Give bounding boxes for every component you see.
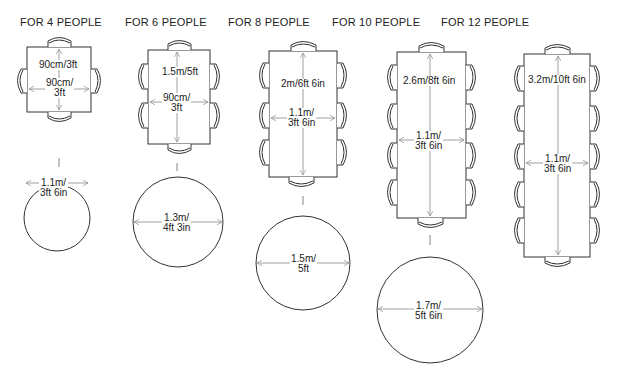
width-label: 90cm/ 3ft — [162, 93, 191, 113]
group-title: FOR 12 PEOPLE — [441, 16, 529, 28]
chair-icon — [466, 180, 476, 205]
chair-icon — [388, 104, 398, 129]
width-label-line2: 3ft 6in — [415, 141, 442, 151]
table-size-diagram — [0, 0, 620, 374]
length-label: 90cm/3ft — [38, 60, 78, 70]
chair-icon — [515, 66, 525, 91]
chair-icon — [590, 66, 600, 91]
group-title: FOR 6 PEOPLE — [125, 16, 207, 28]
group-title: FOR 10 PEOPLE — [332, 16, 420, 28]
chair-icon — [91, 69, 101, 93]
chair-icon — [590, 144, 600, 169]
chair-icon — [388, 65, 398, 90]
chair-icon — [590, 218, 600, 243]
length-label: 3.2m/10ft 6in — [527, 75, 587, 85]
chair-icon — [466, 143, 476, 168]
chair-icon — [291, 42, 316, 52]
width-label-line2: 3ft 6in — [288, 118, 315, 128]
width-label: 1.1m/ 3ft 6in — [287, 108, 316, 128]
chair-icon — [139, 103, 149, 128]
width-label: 1.1m/ 3ft 6in — [543, 154, 572, 174]
chair-icon — [48, 38, 71, 48]
chair-icon — [48, 112, 71, 122]
chair-icon — [545, 257, 570, 267]
chair-icon — [515, 218, 525, 243]
diameter-label-line2: 5ft — [291, 264, 316, 274]
chair-icon — [418, 218, 443, 228]
width-label-line2: 3ft — [163, 103, 190, 113]
group-title: FOR 4 PEOPLE — [20, 16, 102, 28]
chair-icon — [388, 180, 398, 205]
diameter-label-line2: 3ft 6in — [40, 188, 67, 198]
diameter-label-line2: 5ft 6in — [415, 311, 442, 321]
chair-icon — [18, 69, 28, 93]
diameter-label: 1.5m/ 5ft — [290, 254, 317, 274]
chair-icon — [289, 177, 314, 187]
chair-icon — [419, 43, 444, 53]
width-label-line2: 3ft 6in — [544, 164, 571, 174]
chair-icon — [260, 63, 270, 88]
chair-icon — [210, 103, 220, 128]
chair-icon — [515, 144, 525, 169]
chair-icon — [388, 143, 398, 168]
length-label: 2.6m/8ft 6in — [402, 76, 456, 86]
group-title: FOR 8 PEOPLE — [228, 16, 310, 28]
width-label-line2: 3ft — [46, 88, 73, 98]
chair-icon — [590, 182, 600, 207]
width-label: 90cm/ 3ft — [45, 78, 74, 98]
diameter-label: 1.7m/ 5ft 6in — [414, 301, 443, 321]
chair-icon — [515, 182, 525, 207]
width-label: 1.1m/ 3ft 6in — [414, 131, 443, 151]
chair-icon — [466, 65, 476, 90]
chair-icon — [337, 103, 347, 128]
length-label: 2m/6ft 6in — [280, 79, 326, 89]
diameter-label: 1.3m/ 4ft 3in — [162, 213, 191, 233]
chair-icon — [260, 103, 270, 128]
diameter-label: 1.1m/ 3ft 6in — [39, 178, 68, 198]
chair-icon — [168, 41, 191, 51]
chair-icon — [139, 64, 149, 89]
chair-icon — [337, 140, 347, 165]
chair-icon — [168, 144, 191, 154]
chair-icon — [545, 45, 570, 55]
chair-icon — [590, 106, 600, 131]
chair-icon — [515, 106, 525, 131]
chair-icon — [337, 63, 347, 88]
chair-icon — [260, 140, 270, 165]
chair-icon — [210, 64, 220, 89]
length-label: 1.5m/5ft — [161, 67, 199, 77]
chair-icon — [466, 104, 476, 129]
diameter-label-line2: 4ft 3in — [163, 223, 190, 233]
